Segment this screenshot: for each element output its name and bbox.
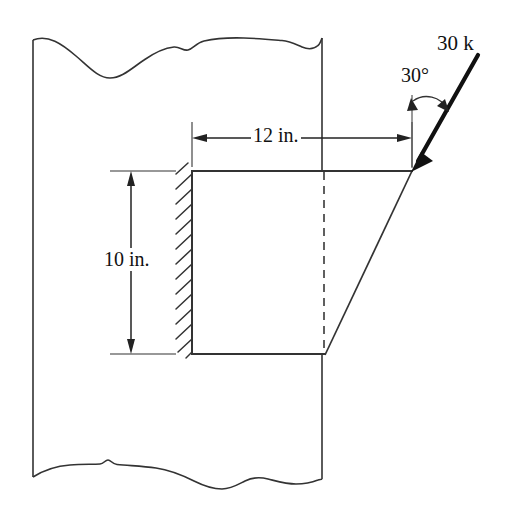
dim-h-arrow-left-icon xyxy=(192,134,207,142)
force-arrowhead-icon xyxy=(411,152,433,172)
dim-h-arrow-right-icon xyxy=(397,134,412,142)
engineering-diagram xyxy=(0,0,506,515)
break-line-top-icon xyxy=(33,38,322,78)
dim-v-arrow-up-icon xyxy=(127,171,135,186)
force-label: 30 k xyxy=(437,31,474,56)
angle-label: 30° xyxy=(401,64,429,87)
figure-canvas: 30 k 30° 12 in. 10 in. xyxy=(0,0,506,515)
dim-v-arrow-down-icon xyxy=(127,339,135,354)
wall-hatch-icon xyxy=(176,163,192,358)
break-line-bottom-icon xyxy=(33,460,322,489)
horizontal-dimension-label: 12 in. xyxy=(251,124,301,147)
vertical-dimension-label: 10 in. xyxy=(102,248,152,271)
bracket-inclined-edge xyxy=(325,171,412,355)
